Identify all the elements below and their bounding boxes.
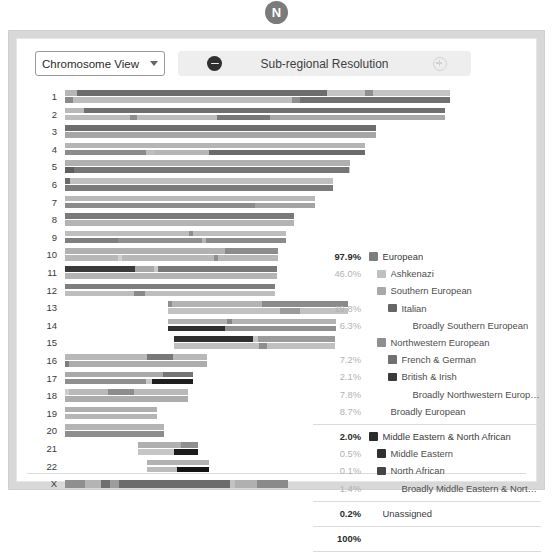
chromosome-label: 2 (35, 106, 57, 124)
haplotype-bar[interactable] (147, 467, 209, 473)
legend-row[interactable]: 46.0%Ashkenazi (313, 265, 541, 282)
haplotype-bar[interactable] (65, 372, 193, 378)
chromosome-label: 10 (35, 246, 57, 264)
legend-row[interactable]: Southern European (313, 282, 541, 299)
legend-label: North African (391, 465, 445, 476)
plus-circle-icon[interactable] (433, 57, 447, 71)
chromosome-label: 14 (35, 317, 57, 335)
ancestry-segment (65, 108, 84, 114)
haplotype-bar[interactable] (65, 196, 315, 202)
legend-row[interactable]: 2.1%British & Irish (313, 368, 541, 385)
haplotype-bar[interactable] (65, 178, 333, 184)
haplotype-bar[interactable] (65, 213, 294, 219)
haplotype-bar[interactable] (138, 442, 198, 448)
haplotype-bar[interactable] (65, 431, 164, 437)
haplotype-bar[interactable] (65, 424, 164, 430)
legend-color-swatch (377, 287, 386, 296)
resolution-bar: Sub-regional Resolution (178, 51, 471, 76)
ancestry-segment (168, 319, 227, 325)
haplotype-bar[interactable] (65, 203, 315, 209)
legend-color-swatch (399, 390, 408, 399)
haplotype-bar[interactable] (65, 407, 157, 413)
haplotype-bar[interactable] (65, 97, 450, 103)
haplotype-bar[interactable] (65, 143, 365, 149)
haplotype-bar[interactable] (65, 396, 188, 402)
legend-row[interactable]: Northwestern European (313, 334, 541, 351)
chromosome-label: 6 (35, 176, 57, 194)
haplotype-bar[interactable] (65, 255, 278, 261)
haplotype-bar[interactable] (65, 238, 286, 244)
haplotype-bar[interactable] (168, 326, 336, 332)
haplotype-bar[interactable] (65, 115, 445, 121)
ancestry-segment (152, 379, 193, 385)
haplotype-bar[interactable] (65, 150, 365, 156)
ancestry-legend: 97.9%European46.0%AshkenaziSouthern Euro… (313, 245, 541, 552)
chromosome-label: 15 (35, 334, 57, 352)
haplotype-stack (65, 90, 526, 104)
legend-row[interactable]: 2.0%Middle Eastern & North African (313, 428, 541, 445)
legend-row[interactable]: 0.5%Middle Eastern (313, 445, 541, 462)
ancestry-segment (158, 266, 277, 272)
haplotype-bar[interactable] (65, 231, 286, 237)
legend-row[interactable]: 7.8%Broadly Northwestern European (313, 386, 541, 403)
haplotype-bar[interactable] (65, 125, 376, 131)
ancestry-segment (206, 238, 285, 244)
ancestry-segment (155, 150, 209, 156)
haplotype-bar[interactable] (65, 291, 275, 297)
haplotype-bar[interactable] (65, 167, 350, 173)
ancestry-segment (65, 480, 85, 488)
legend-row[interactable]: 0.2%Unassigned (313, 505, 541, 522)
haplotype-bar[interactable] (65, 379, 193, 385)
ancestry-segment (255, 203, 315, 209)
haplotype-bar[interactable] (65, 480, 288, 488)
chromosome-label: X (35, 475, 57, 493)
haplotype-bar[interactable] (65, 220, 294, 226)
haplotype-bar[interactable] (65, 160, 350, 166)
legend-row[interactable]: 97.9%European (313, 248, 541, 265)
legend-entry: Broadly Northwestern European (369, 389, 541, 400)
haplotype-bar[interactable] (174, 343, 335, 349)
legend-section-total: 100% (313, 527, 541, 551)
minus-circle-icon[interactable] (207, 56, 222, 71)
legend-row[interactable]: 0.1%North African (313, 462, 541, 479)
chromosome-row: 8 (35, 211, 526, 229)
haplotype-bar[interactable] (65, 389, 188, 395)
haplotype-bar[interactable] (168, 319, 336, 325)
chromosome-row: 4 (35, 141, 526, 159)
haplotype-bar[interactable] (138, 449, 198, 455)
ancestry-segment (65, 203, 255, 209)
legend-row[interactable]: 19.8%Italian (313, 300, 541, 317)
legend-percent: 8.7% (313, 406, 369, 417)
haplotype-bar[interactable] (65, 273, 277, 279)
view-select[interactable]: Chromosome View (35, 51, 165, 76)
legend-percent: 2.0% (313, 431, 369, 442)
toolbar: Chromosome View Sub-regional Resolution (35, 51, 518, 77)
legend-color-swatch (369, 432, 378, 441)
haplotype-bar[interactable] (65, 185, 333, 191)
legend-row[interactable]: 100% (313, 530, 541, 547)
haplotype-bar[interactable] (65, 414, 157, 420)
chromosome-row: 6 (35, 176, 526, 194)
ancestry-segment (146, 150, 155, 156)
legend-section-mena: 2.0%Middle Eastern & North African0.5%Mi… (313, 425, 541, 501)
legend-row[interactable]: 7.2%French & German (313, 351, 541, 368)
haplotype-bar[interactable] (65, 354, 207, 360)
chromosome-label: 16 (35, 352, 57, 370)
ancestry-segment (300, 97, 450, 103)
haplotype-bar[interactable] (65, 248, 278, 254)
haplotype-bar[interactable] (174, 336, 335, 342)
haplotype-bar[interactable] (65, 361, 207, 367)
haplotype-bar[interactable] (65, 284, 275, 290)
haplotype-bar[interactable] (147, 460, 209, 466)
haplotype-bar[interactable] (65, 266, 277, 272)
haplotype-bar[interactable] (65, 108, 445, 114)
legend-row[interactable]: 1.4%Broadly Middle Eastern & North Afric… (313, 479, 541, 496)
legend-entry: Ashkenazi (369, 268, 541, 279)
chromosome-row: 5 (35, 158, 526, 176)
legend-row[interactable]: 6.3%Broadly Southern European (313, 317, 541, 334)
chromosome-label: 4 (35, 141, 57, 159)
haplotype-bar[interactable] (65, 90, 450, 96)
ancestry-segment (119, 480, 231, 488)
haplotype-bar[interactable] (65, 132, 376, 138)
legend-row[interactable]: 8.7%Broadly European (313, 403, 541, 420)
